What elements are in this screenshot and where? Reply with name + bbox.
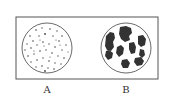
label-b: B — [116, 84, 136, 95]
diagram-canvas — [0, 0, 171, 105]
dish-b — [101, 23, 151, 73]
dish-a — [22, 23, 72, 73]
label-a: A — [37, 84, 57, 95]
